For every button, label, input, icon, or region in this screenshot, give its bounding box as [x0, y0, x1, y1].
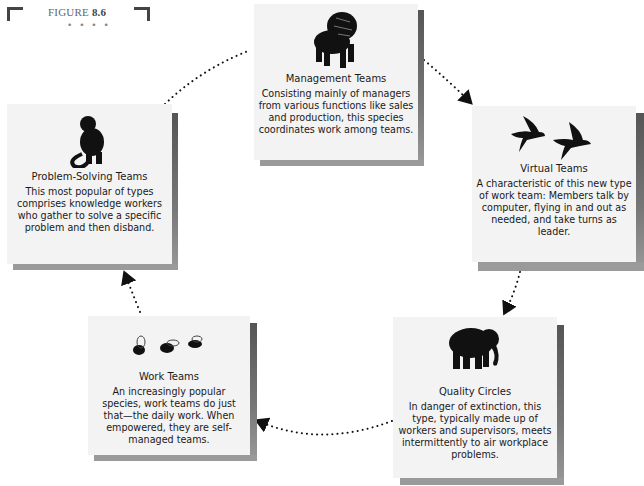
- shadow-virtual: [636, 113, 644, 271]
- management-description: Consisting mainly of managers from vario…: [254, 88, 418, 136]
- card-virtual-teams: Virtual Teams A characteristic of this n…: [472, 106, 636, 262]
- shadow-quality-bottom: [400, 478, 564, 485]
- arrow-management-to-virtual: [424, 60, 470, 102]
- work-description: An increasingly popular species, work te…: [88, 386, 250, 446]
- shadow-virtual-bottom: [478, 262, 644, 271]
- shadow-work-bottom: [94, 455, 257, 461]
- arrow-work-to-problem: [125, 274, 140, 312]
- arrow-problem-to-management: [165, 51, 248, 104]
- lion-icon: [310, 10, 362, 70]
- quality-title: Quality Circles: [393, 385, 557, 398]
- shadow-quality: [557, 325, 564, 485]
- shadow-problem: [172, 113, 178, 270]
- monkey-icon: [68, 114, 112, 168]
- virtual-description: A characteristic of this new type of wor…: [472, 178, 636, 238]
- management-title: Management Teams: [254, 72, 418, 85]
- shadow-problem-bottom: [13, 264, 178, 270]
- card-problem-solving-teams: Problem-Solving Teams This most popular …: [7, 104, 172, 264]
- work-title: Work Teams: [88, 370, 250, 383]
- birds-icon: [509, 116, 599, 160]
- card-work-teams: Work Teams An increasingly popular speci…: [88, 316, 250, 455]
- quality-description: In danger of extinction, this type, typi…: [393, 401, 557, 461]
- elephant-icon: [445, 325, 505, 371]
- problem-title: Problem-Solving Teams: [7, 170, 172, 183]
- shadow-management: [418, 10, 424, 166]
- problem-description: This most popular of types comprises kno…: [7, 186, 172, 234]
- arrow-quality-to-work: [258, 421, 392, 435]
- shadow-work: [250, 323, 257, 461]
- card-management-teams: Management Teams Consisting mainly of ma…: [254, 4, 418, 160]
- card-quality-circles: Quality Circles In danger of extinction,…: [393, 317, 557, 478]
- bees-icon: [129, 334, 209, 358]
- arrow-virtual-to-quality: [505, 272, 520, 312]
- shadow-management-bottom: [260, 160, 424, 166]
- virtual-title: Virtual Teams: [472, 162, 636, 175]
